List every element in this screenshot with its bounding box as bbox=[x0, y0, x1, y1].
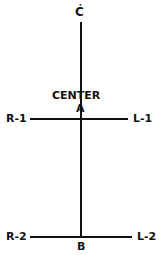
label-l1: L-1 bbox=[133, 113, 152, 124]
label-r2: R-2 bbox=[6, 231, 27, 242]
horizontal-line-2 bbox=[30, 236, 132, 238]
horizontal-line-1 bbox=[30, 118, 128, 120]
center-title: CENTER bbox=[52, 90, 100, 101]
vertical-line bbox=[80, 22, 82, 236]
label-l2: L-2 bbox=[137, 231, 156, 242]
label-r1: R-1 bbox=[6, 113, 27, 124]
label-b: B bbox=[77, 241, 85, 252]
label-a: A bbox=[76, 103, 85, 114]
label-c: Ċ bbox=[75, 6, 84, 18]
